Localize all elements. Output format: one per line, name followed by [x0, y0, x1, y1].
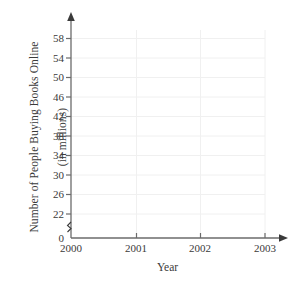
y-axis-title-line1: Number of People Buying Books Online	[27, 22, 41, 252]
x-axis-title: Year	[60, 261, 275, 273]
x-tick-label-2003: 2003	[243, 243, 287, 254]
horizontal-gridlines	[71, 39, 265, 215]
x-tick-label-2001: 2001	[114, 243, 158, 254]
y-axis-title: Number of People Buying Books Online (in…	[13, 22, 47, 252]
x-axis-arrowhead	[279, 234, 288, 242]
x-tick-label-2002: 2002	[178, 243, 222, 254]
x-axis-line	[71, 234, 288, 242]
vertical-gridlines	[137, 30, 266, 238]
chart-figure: 58 54 50 46 42 38 34 30 26 22 0 2000 200…	[0, 0, 303, 288]
y-axis-arrowhead	[67, 12, 75, 21]
x-axis-ticks	[137, 233, 266, 238]
y-axis-title-line2: (in millions)	[55, 22, 69, 252]
